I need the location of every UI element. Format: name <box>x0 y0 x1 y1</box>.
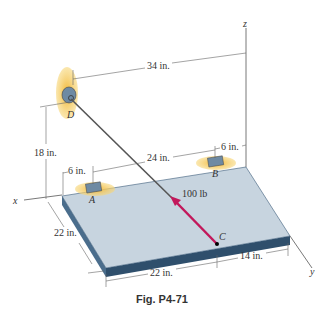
dim-22-bottom-label: 22 in. <box>150 267 173 278</box>
y-axis-label: y <box>309 266 315 277</box>
point-b-label: B <box>212 168 218 179</box>
point-d-label: D <box>66 109 75 120</box>
dim-24-label: 24 in. <box>147 152 170 163</box>
statics-diagram: z x y D A B 100 lb C 34 in. <box>0 0 330 321</box>
point-c <box>215 242 219 246</box>
dim-6-a-label: 6 in. <box>68 165 86 176</box>
dim-14-label: 14 in. <box>240 250 263 261</box>
dim-34-label: 34 in. <box>147 60 170 71</box>
dim-22-depth-label: 22 in. <box>54 227 77 238</box>
x-axis-label: x <box>12 195 18 206</box>
z-axis-label: z <box>242 18 247 29</box>
x-axis: x <box>12 195 62 206</box>
dim-18-label: 18 in. <box>34 147 57 158</box>
dim-6-b-label: 6 in. <box>221 141 239 152</box>
point-a-label: A <box>88 194 96 205</box>
force-label: 100 lb <box>182 188 207 199</box>
figure-caption: Fig. P4-71 <box>136 293 188 305</box>
z-axis: z <box>242 18 247 167</box>
point-c-label: C <box>219 231 226 242</box>
y-axis: y <box>290 236 315 277</box>
eyebolt-d <box>62 87 76 103</box>
